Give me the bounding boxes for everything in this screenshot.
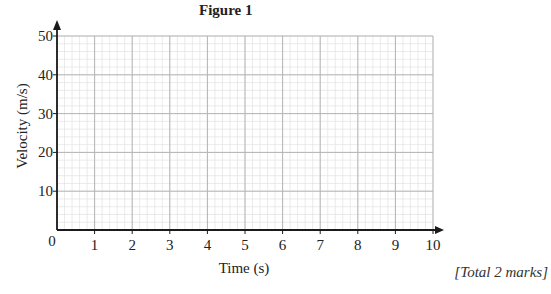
y-tick-label: 10 — [38, 183, 53, 199]
x-tick-label: 9 — [392, 237, 400, 253]
y-tick-label: 50 — [38, 28, 53, 44]
y-axis-label: Velocity (m/s) — [14, 83, 31, 168]
x-tick-label: 5 — [241, 237, 249, 253]
x-tick-label: 4 — [204, 237, 212, 253]
chart-area: 0123456789101020304050 Time (s) Velocity… — [0, 0, 551, 294]
y-tick-label: 30 — [38, 106, 53, 122]
y-tick-label: 40 — [38, 67, 53, 83]
y-axis-arrow-icon — [53, 20, 61, 30]
axes — [53, 20, 444, 234]
x-tick-label: 7 — [316, 237, 324, 253]
x-tick-label: 10 — [426, 237, 441, 253]
x-tick-label: 3 — [166, 237, 174, 253]
y-tick-label: 20 — [38, 144, 53, 160]
x-tick-label: 2 — [128, 237, 136, 253]
x-tick-label: 0 — [48, 233, 56, 249]
grid — [57, 36, 433, 230]
x-axis-label: Time (s) — [219, 260, 270, 277]
x-tick-label: 8 — [354, 237, 362, 253]
x-tick-label: 1 — [91, 237, 99, 253]
x-axis-arrow-icon — [435, 226, 444, 234]
x-tick-label: 6 — [279, 237, 287, 253]
total-marks: [Total 2 marks] — [454, 264, 548, 281]
